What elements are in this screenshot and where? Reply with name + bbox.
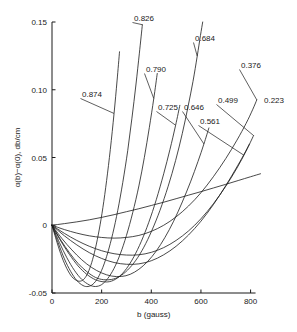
- curve-label: 0.561: [200, 117, 221, 126]
- data-curve: [52, 136, 254, 256]
- line-chart-svg: 0.8740.8260.7900.7250.6460.6840.5610.499…: [0, 0, 297, 332]
- x-tick-label: 0: [50, 297, 55, 306]
- data-curve: [52, 144, 249, 264]
- curve-label: 0.223: [264, 96, 285, 105]
- curve-label: 0.826: [134, 14, 155, 23]
- curve-label: 0.646: [184, 103, 205, 112]
- curve-label-leader: [194, 43, 198, 57]
- curve-label-leader: [157, 112, 176, 126]
- curves-group: [52, 22, 261, 287]
- x-tick-label: 600: [194, 297, 208, 306]
- chart-figure: 0.8740.8260.7900.7250.6460.6840.5610.499…: [0, 0, 297, 332]
- axes-group: [52, 22, 256, 293]
- curve-label-leader: [240, 70, 257, 100]
- y-tick-label: -0.05: [29, 289, 48, 298]
- y-tick-label: 0.05: [31, 154, 47, 163]
- curve-label-leader: [145, 74, 154, 99]
- curve-label: 0.499: [218, 96, 239, 105]
- curve-label: 0.874: [82, 90, 103, 99]
- y-tick-label: 0.10: [31, 86, 47, 95]
- data-curve: [52, 128, 209, 277]
- curve-label-leader: [81, 99, 115, 114]
- y-tick-label: 0: [43, 221, 48, 230]
- curve-label: 0.790: [146, 65, 167, 74]
- x-tick-label: 400: [145, 297, 159, 306]
- x-axis-title: b (gauss): [137, 310, 171, 319]
- x-tick-label: 200: [95, 297, 109, 306]
- data-curve: [52, 100, 257, 238]
- y-tick-label: 0.15: [31, 18, 47, 27]
- curve-label: 0.684: [195, 34, 216, 43]
- x-tick-label: 800: [244, 297, 258, 306]
- y-axis-title: α(b)−α(0), db/cm: [13, 127, 22, 187]
- curve-label: 0.376: [241, 61, 262, 70]
- curve-label: 0.725: [158, 103, 179, 112]
